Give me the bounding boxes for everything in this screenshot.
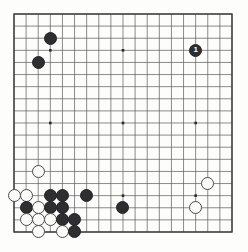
black-stone[interactable]: [32, 56, 45, 69]
black-stone[interactable]: [44, 32, 57, 45]
white-stone[interactable]: [32, 201, 45, 214]
star-point: [194, 122, 197, 125]
star-point: [49, 49, 52, 52]
star-point: [122, 194, 125, 197]
white-stone[interactable]: [8, 189, 21, 202]
star-point: [49, 122, 52, 125]
white-stone[interactable]: [20, 189, 33, 202]
black-stone[interactable]: [20, 201, 33, 214]
black-stone[interactable]: 1: [189, 44, 202, 57]
white-stone[interactable]: [32, 165, 45, 178]
go-diagram-root: 1: [0, 0, 248, 252]
black-stone[interactable]: [44, 201, 57, 214]
star-point: [194, 194, 197, 197]
go-board[interactable]: 1: [0, 0, 248, 252]
black-stone[interactable]: [56, 189, 69, 202]
star-point: [122, 122, 125, 125]
star-point: [122, 49, 125, 52]
black-stone[interactable]: [44, 189, 57, 202]
stone-move-number: 1: [190, 45, 201, 56]
white-stone[interactable]: [20, 213, 33, 226]
